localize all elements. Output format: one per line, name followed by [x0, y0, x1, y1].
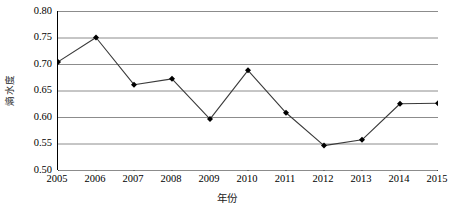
- y-axis-tick-label: 0.55: [34, 138, 52, 149]
- y-axis-title: 熵水度: [0, 0, 18, 180]
- x-axis-tick-label: 2009: [199, 173, 220, 185]
- data-point-marker: [435, 100, 438, 106]
- plot-area: [57, 11, 438, 170]
- x-axis-tick-labels: 2005200620072008200920102011201220132014…: [57, 173, 437, 189]
- data-series-line: [58, 38, 438, 146]
- x-axis-tick-label: 2012: [313, 173, 334, 185]
- y-axis-tick-label: 0.70: [34, 59, 52, 70]
- x-axis-tick-label: 2011: [275, 173, 296, 185]
- x-axis-tick-label: 2013: [351, 173, 372, 185]
- data-point-markers: [58, 35, 438, 149]
- y-axis-tick-label: 0.60: [34, 112, 52, 123]
- x-axis-tick-label: 2005: [47, 173, 68, 185]
- plot-svg: [58, 11, 438, 171]
- y-axis-tick-label: 0.65: [34, 85, 52, 96]
- y-axis-tick-label: 0.75: [34, 32, 52, 43]
- line-chart: 熵水度 0.800.750.700.650.600.550.50 2005200…: [0, 0, 454, 217]
- x-axis-tick-label: 2007: [123, 173, 144, 185]
- x-axis-tick-label: 2010: [237, 173, 258, 185]
- y-axis-title-label: 熵水度: [2, 74, 16, 106]
- x-axis-tick-label: 2008: [161, 173, 182, 185]
- y-axis-tick-label: 0.80: [34, 6, 52, 17]
- x-axis-title: 年份: [0, 190, 454, 205]
- x-axis-tick-label: 2006: [85, 173, 106, 185]
- x-axis-tick-label: 2014: [389, 173, 410, 185]
- x-axis-tick-label: 2015: [427, 173, 448, 185]
- gridlines: [58, 12, 438, 171]
